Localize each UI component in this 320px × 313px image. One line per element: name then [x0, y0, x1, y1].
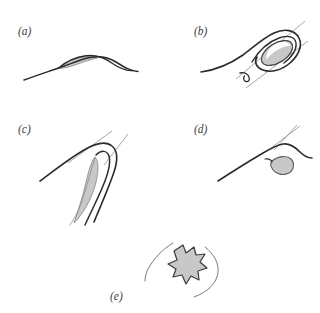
figure-svg: (a) (b)	[0, 0, 320, 313]
panel-b-label: (b)	[194, 25, 208, 38]
panel-e-label: (e)	[110, 290, 123, 303]
figure-container: (a) (b)	[0, 0, 320, 313]
panel-a-label: (a)	[18, 25, 32, 38]
panel-d-shaded-teardrop	[271, 157, 294, 175]
panel-c-label: (c)	[18, 123, 31, 136]
panel-d-label: (d)	[194, 123, 208, 136]
